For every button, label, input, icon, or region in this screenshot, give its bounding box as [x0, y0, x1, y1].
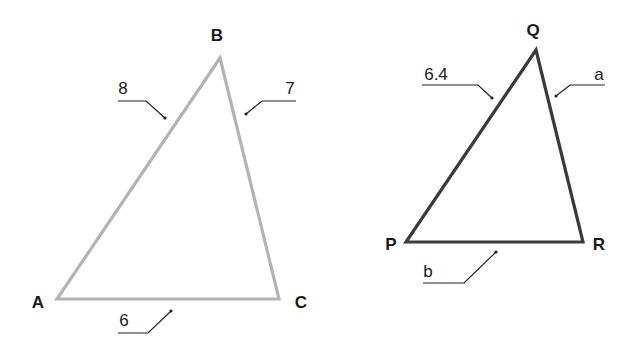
- side-qr-label: a: [594, 65, 604, 84]
- triangle-abc: B A C 8 7 6: [32, 26, 307, 333]
- side-qr-measure: a: [554, 65, 605, 98]
- triangle-abc-outline: [57, 58, 279, 299]
- side-bc-measure: 7: [244, 79, 296, 116]
- side-qr-leader-dot: [554, 94, 557, 97]
- side-pq-label: 6.4: [424, 65, 448, 84]
- side-ab-measure: 8: [118, 79, 167, 120]
- side-bc-leader-line: [246, 101, 296, 114]
- side-ac-leader-dot: [169, 309, 172, 312]
- similar-triangles-diagram: B A C 8 7 6 Q P R 6.4 a: [0, 0, 637, 346]
- triangle-pqr: Q P R 6.4 a b: [385, 21, 605, 283]
- vertex-label-p: P: [385, 235, 396, 254]
- side-ab-leader-dot: [163, 116, 166, 119]
- side-bc-leader-dot: [244, 112, 247, 115]
- vertex-label-a: A: [32, 293, 44, 312]
- side-pq-leader-line: [422, 85, 492, 98]
- side-pr-measure: b: [423, 250, 498, 283]
- side-ab-leader-line: [118, 101, 165, 118]
- side-pq-measure: 6.4: [422, 65, 494, 100]
- side-ac-measure: 6: [118, 309, 173, 333]
- side-pq-leader-dot: [490, 96, 493, 99]
- vertex-label-c: C: [295, 293, 307, 312]
- side-ab-label: 8: [118, 79, 127, 98]
- vertex-label-r: R: [593, 235, 605, 254]
- side-bc-label: 7: [285, 79, 294, 98]
- vertex-label-q: Q: [526, 21, 539, 40]
- side-pr-leader-dot: [494, 250, 497, 253]
- side-pr-leader-line: [423, 252, 496, 283]
- vertex-label-b: B: [211, 26, 223, 45]
- side-qr-leader-line: [556, 85, 605, 96]
- side-ac-label: 6: [119, 311, 128, 330]
- side-pr-label: b: [423, 262, 432, 281]
